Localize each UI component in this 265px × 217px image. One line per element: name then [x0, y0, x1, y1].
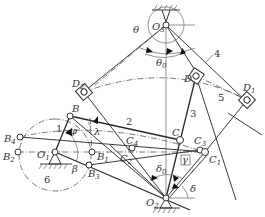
label-theta0: θ0 [156, 57, 167, 70]
label-c: C [172, 127, 180, 138]
d1-cross-line [228, 113, 262, 135]
mechanism-diagram: O3 θ θ0 4 D D1 D2 5 3 2 1 6 B B4 B2 O1 B… [0, 0, 265, 217]
joint-c1 [202, 149, 209, 156]
beta-arc [76, 152, 78, 162]
label-c1: C1 [209, 154, 221, 167]
o1-hatch [39, 164, 67, 169]
lambda-arrow [93, 116, 98, 124]
o3-support-2 [166, 10, 170, 22]
link-4-marker [205, 55, 213, 63]
label-gamma: γ [182, 154, 188, 165]
label-c3: C3 [194, 135, 207, 148]
label-o1: O1 [37, 149, 50, 162]
delta-arc [182, 186, 188, 198]
label-link-3: 3 [190, 108, 196, 119]
link-4-line [166, 25, 250, 105]
label-link-6: 6 [44, 174, 50, 185]
label-link-5: 5 [218, 92, 224, 103]
label-b4: B4 [3, 133, 16, 146]
label-phi: φ [70, 125, 77, 136]
label-b2: B2 [2, 151, 15, 164]
o3-support [162, 10, 166, 22]
label-link-4: 4 [214, 48, 220, 59]
link-d1-line [205, 100, 247, 152]
label-beta: β [71, 163, 78, 174]
label-b: B [71, 103, 79, 114]
theta-arrow-left [146, 47, 153, 53]
label-delta0: δ0 [156, 163, 167, 176]
joint-o2 [163, 195, 169, 201]
label-theta: θ [133, 24, 139, 35]
label-link-1: 1 [56, 123, 62, 134]
label-o2: O2 [146, 197, 159, 210]
delta0-arrow-left [151, 175, 158, 181]
link-2-line [70, 116, 180, 140]
label-lambda: λ [93, 126, 100, 137]
label-b1: B1 [96, 151, 109, 164]
label-d: D [183, 73, 192, 84]
label-link-2: 2 [126, 116, 132, 127]
o3-d2-dash [95, 25, 166, 85]
joint-o1 [52, 149, 58, 155]
joint-b4 [17, 134, 23, 140]
label-delta: δ [190, 183, 196, 194]
joint-b2 [15, 149, 21, 155]
joint-b1 [89, 149, 95, 155]
